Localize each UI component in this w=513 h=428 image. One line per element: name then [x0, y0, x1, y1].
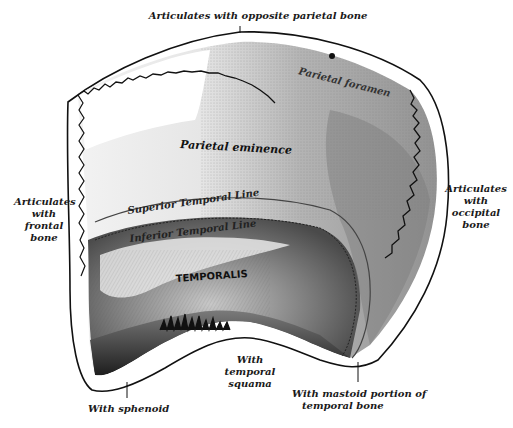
- label-frontal-line1: Articulates: [14, 196, 74, 208]
- label-temporal-squama: With temporal squama: [210, 354, 290, 390]
- label-occipital-line4: bone: [445, 219, 507, 231]
- label-squama-line1: With: [210, 354, 290, 366]
- parietal-bone-figure: Parietal foramen Parietal eminence Super…: [0, 0, 513, 428]
- label-mastoid-line1: With mastoid portion of: [292, 388, 432, 400]
- label-occipital: Articulates with occipital bone: [445, 183, 507, 231]
- label-frontal-line2: with: [14, 208, 74, 220]
- label-frontal: Articulates with frontal bone: [14, 196, 74, 244]
- label-squama-line2: temporal squama: [210, 366, 290, 390]
- label-mastoid-line2: temporal bone: [292, 400, 432, 412]
- label-sphenoid: With sphenoid: [88, 403, 168, 415]
- label-mastoid: With mastoid portion of temporal bone: [292, 388, 432, 412]
- label-frontal-line4: bone: [14, 232, 74, 244]
- label-occipital-line2: with: [445, 195, 507, 207]
- label-frontal-line3: frontal: [14, 220, 74, 232]
- label-opposite-parietal: Articulates with opposite parietal bone: [148, 10, 368, 22]
- label-occipital-line1: Articulates: [445, 183, 507, 195]
- parietal-foramen-mark: [329, 53, 335, 59]
- label-occipital-line3: occipital: [445, 207, 507, 219]
